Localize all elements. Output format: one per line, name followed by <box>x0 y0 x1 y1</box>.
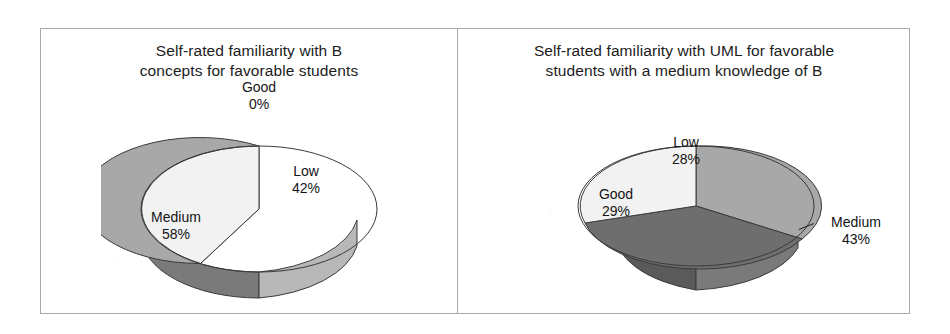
chart-panel-left: Self-rated familiarity with B concepts f… <box>41 29 457 313</box>
figure-frame: Self-rated familiarity with B concepts f… <box>40 28 910 314</box>
pie-label-low-left: Low 42% <box>261 163 351 197</box>
chart-title-right: Self-rated familiarity with UML for favo… <box>458 41 910 81</box>
chart-title-left: Self-rated familiarity with B concepts f… <box>41 41 457 81</box>
pie-label-good-right: Good 29% <box>571 186 661 220</box>
pie-label-good-left: Good 0% <box>199 79 319 113</box>
pie-chart-right: Low 28% Good 29% Medium 43% <box>493 114 893 304</box>
pie-label-medium-right: Medium 43% <box>813 214 899 248</box>
pie-label-low-right: Low 28% <box>641 134 731 168</box>
chart-panel-right: Self-rated familiarity with UML for favo… <box>458 29 910 313</box>
pie-chart-left: Good 0% Low 42% Medium 58% <box>101 121 421 311</box>
pie-label-medium-left: Medium 58% <box>121 209 231 243</box>
